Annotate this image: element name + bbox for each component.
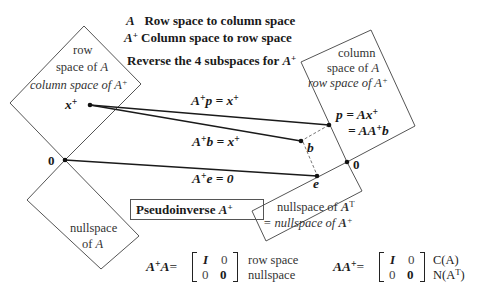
column-space-label-1: column xyxy=(338,47,376,60)
b-label: b xyxy=(307,141,314,155)
nullspace-a-label-2: of A xyxy=(82,238,103,251)
label-column-space-ca: C(A) xyxy=(433,254,459,267)
label-row-space: row space xyxy=(248,254,298,267)
p-equation-2: = AA+b xyxy=(348,124,389,138)
formula-left-lhs: A+A= xyxy=(146,260,177,274)
header-line-3: Reverse the 4 subspaces for A+ xyxy=(127,54,296,67)
origin-label-right: 0 xyxy=(353,158,360,171)
bracket-left xyxy=(192,252,197,282)
nullspace-aplus-label: = nullspace of A+ xyxy=(263,217,353,230)
bracket-right xyxy=(420,252,425,282)
arrow-x-to-p xyxy=(90,105,329,125)
nullspace-diamond xyxy=(27,160,139,269)
arrow-label-e: A+e = 0 xyxy=(192,172,234,186)
point-x-plus xyxy=(88,103,93,108)
matrix-cell: 0 xyxy=(408,253,415,266)
matrix-cell: 0 xyxy=(407,268,414,281)
row-space-of-aplus-label: row space of A+ xyxy=(308,77,388,90)
dashed-p-to-b xyxy=(301,125,329,141)
matrix-cell: I xyxy=(390,253,395,266)
label-left-nullspace-nat: N(AT) xyxy=(433,269,465,282)
matrix-cell: 0 xyxy=(389,268,396,281)
column-space-of-aplus-label: column space of A+ xyxy=(30,79,128,92)
matrix-cell: 0 xyxy=(221,253,228,266)
point-p xyxy=(327,123,332,128)
arrow-label-b: A+b = x+ xyxy=(192,135,240,149)
bracket-left xyxy=(379,252,384,282)
header-line-2: A+ Column space to row space xyxy=(124,31,292,44)
row-space-label-2: space of A xyxy=(56,61,108,74)
matrix-cell: 0 xyxy=(202,268,209,281)
matrix-cell: 0 xyxy=(220,268,227,281)
e-label: e xyxy=(313,177,319,191)
row-space-label-1: row xyxy=(73,44,92,57)
matrix-aplus-a: I 0 0 0 xyxy=(192,252,238,282)
nullspace-at-label: nullspace of AT xyxy=(277,201,355,214)
p-equation-1: p = Ax+ xyxy=(336,108,378,122)
matrix-a-aplus: I 0 0 0 xyxy=(379,252,425,282)
label-nullspace: nullspace xyxy=(248,269,295,282)
point-origin-left xyxy=(63,158,68,163)
matrix-cell: I xyxy=(203,253,208,266)
column-space-label-2: space of A xyxy=(327,62,379,75)
point-b xyxy=(299,139,304,144)
bracket-right xyxy=(233,252,238,282)
point-origin-right xyxy=(345,160,350,165)
arrow-e-to-zero xyxy=(65,160,317,176)
origin-label-left: 0 xyxy=(48,154,55,167)
formula-right-lhs: AA+= xyxy=(333,260,364,274)
x-plus-label: x+ xyxy=(65,98,77,112)
nullspace-a-label-1: nullspace xyxy=(70,222,117,235)
arrow-label-p: A+p = x+ xyxy=(191,94,239,108)
header-line-1: A Row space to column space xyxy=(126,14,295,27)
pseudoinverse-title: Pseudoinverse A+ xyxy=(136,203,233,216)
